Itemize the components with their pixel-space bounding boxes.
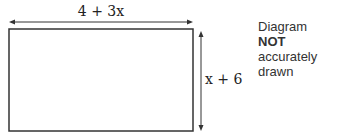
rectangle [9, 29, 193, 131]
not-to-scale-note: Diagram NOT accurately drawn [258, 19, 337, 79]
height-arrow [199, 31, 204, 131]
note-bold: NOT [258, 34, 285, 49]
note-prefix: Diagram [258, 19, 307, 34]
height-label: x + 6 [205, 71, 242, 87]
width-label: 4 + 3x [0, 3, 202, 19]
note-suffix: accurately drawn [258, 49, 317, 79]
width-arrow [9, 20, 193, 25]
